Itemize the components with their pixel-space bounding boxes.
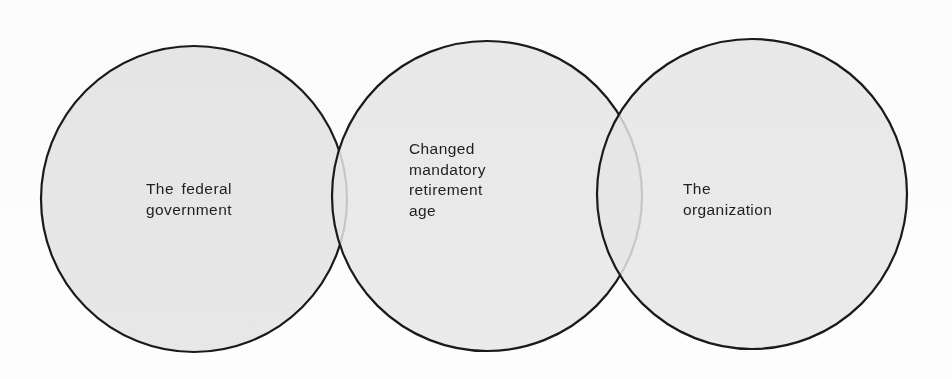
venn-circle-group [41,39,907,352]
venn-circle-middle[interactable] [332,41,642,351]
venn-circle-right[interactable] [597,39,907,349]
venn-diagram-canvas [0,0,952,379]
venn-circle-left[interactable] [41,46,347,352]
venn-diagram: The federal government Changed mandatory… [0,0,952,379]
